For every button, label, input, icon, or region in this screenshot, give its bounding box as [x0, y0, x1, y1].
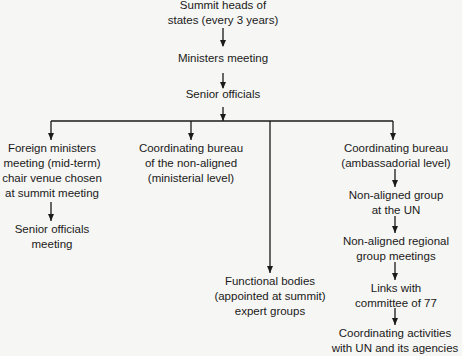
node-label: Coordinating activities	[327, 326, 462, 341]
node-label: meeting	[0, 237, 104, 252]
node-label: Foreign ministers	[0, 141, 104, 156]
node-label: (ambassadorial level)	[335, 156, 457, 171]
node-label: of the non-aligned	[133, 156, 249, 171]
node-senior-officials-meeting: Senior officials meeting	[0, 222, 104, 252]
node-non-aligned-regional-meetings: Non-aligned regional group meetings	[335, 234, 457, 264]
node-ministers-meeting: Ministers meeting	[143, 51, 303, 66]
node-label: group meetings	[335, 249, 457, 264]
node-label: chair venue chosen	[0, 171, 104, 186]
node-label: Non-aligned regional	[335, 234, 457, 249]
node-coordinating-bureau-ministerial: Coordinating bureau of the non-aligned (…	[133, 141, 249, 186]
node-non-aligned-group-un: Non-aligned group at the UN	[335, 188, 457, 218]
node-label: at the UN	[335, 203, 457, 218]
node-coordinating-activities-un: Coordinating activities with UN and its …	[327, 326, 462, 356]
node-functional-bodies: Functional bodies (appointed at summit) …	[205, 274, 335, 319]
node-label: states (every 3 years)	[143, 13, 303, 28]
node-label: (appointed at summit)	[205, 289, 335, 304]
node-label: meeting (mid-term)	[0, 156, 104, 171]
node-label: Coordinating bureau	[335, 141, 457, 156]
node-senior-officials: Senior officials	[143, 87, 303, 102]
node-label: committee of 77	[335, 296, 457, 311]
node-label: (ministerial level)	[133, 171, 249, 186]
node-label: Links with	[335, 281, 457, 296]
node-foreign-ministers-meeting: Foreign ministers meeting (mid-term) cha…	[0, 141, 104, 201]
node-label: Senior officials	[143, 87, 303, 102]
node-label: Functional bodies	[205, 274, 335, 289]
node-label: Non-aligned group	[335, 188, 457, 203]
node-label: Ministers meeting	[143, 51, 303, 66]
node-label: with UN and its agencies	[327, 341, 462, 356]
node-summit-heads-of-states: Summit heads of states (every 3 years)	[143, 0, 303, 28]
node-label: at summit meeting	[0, 186, 104, 201]
node-label: Summit heads of	[143, 0, 303, 13]
node-label: Senior officials	[0, 222, 104, 237]
node-coordinating-bureau-ambassadorial: Coordinating bureau (ambassadorial level…	[335, 141, 457, 171]
node-label: expert groups	[205, 304, 335, 319]
node-links-committee-77: Links with committee of 77	[335, 281, 457, 311]
node-label: Coordinating bureau	[133, 141, 249, 156]
